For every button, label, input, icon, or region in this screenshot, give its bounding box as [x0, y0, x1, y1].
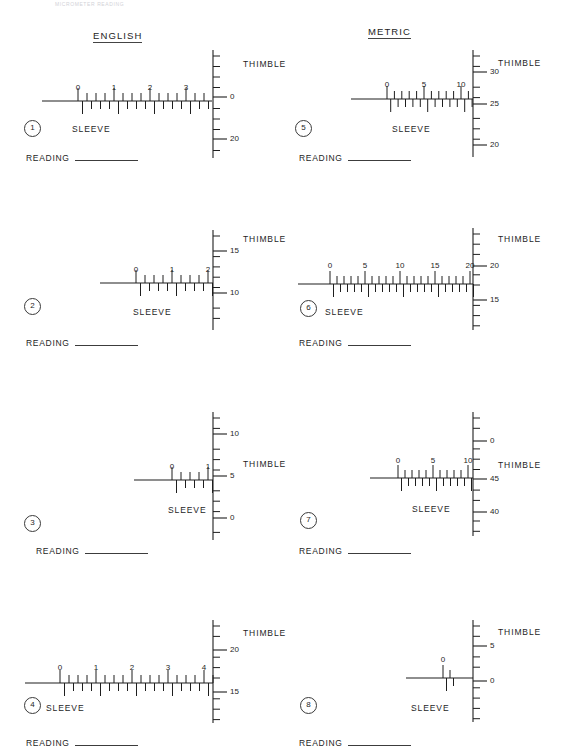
thimble-number-6-20: 20: [490, 261, 499, 270]
thimble-label-6: THIMBLE: [498, 234, 541, 244]
reading-answer-blank-4[interactable]: [75, 745, 138, 746]
sleeve-number-5-5: 5: [416, 80, 432, 89]
exercise-number-4: 4: [24, 697, 41, 714]
reading-label-6: READING: [299, 338, 343, 348]
reading-answer-blank-2[interactable]: [75, 345, 138, 346]
thimble-label-8: THIMBLE: [498, 627, 541, 637]
thimble-number-4-20: 20: [230, 645, 239, 654]
sleeve-number-4-4: 4: [196, 663, 212, 672]
reading-label-2: READING: [26, 338, 70, 348]
sleeve-number-4-3: 3: [160, 663, 176, 672]
reading-row-5: READING: [299, 153, 411, 163]
sleeve-number-6-10: 10: [392, 261, 408, 270]
sleeve-label-2: SLEEVE: [133, 307, 171, 317]
sleeve-label-8: SLEEVE: [411, 703, 449, 713]
sleeve-number-8-0: 0: [435, 655, 451, 664]
thimble-number-3-10: 10: [230, 429, 239, 438]
reading-answer-blank-3[interactable]: [85, 553, 148, 554]
thimble-label-5: THIMBLE: [498, 58, 541, 68]
sleeve-number-7-10: 10: [460, 456, 476, 465]
sleeve-number-6-5: 5: [357, 261, 373, 270]
thimble-number-6-15: 15: [490, 295, 499, 304]
reading-label-3: READING: [36, 546, 80, 556]
reading-row-8: READING: [299, 738, 411, 748]
sleeve-number-1-0: 0: [70, 83, 86, 92]
exercise-number-5: 5: [295, 120, 312, 137]
thimble-number-5-20: 20: [490, 140, 499, 149]
thimble-number-4-15: 15: [230, 687, 239, 696]
worksheet-sheet: MICROMETER READING ENGLISHMETRIC 0123SLE…: [0, 0, 566, 756]
sleeve-number-5-0: 0: [379, 80, 395, 89]
exercise-number-2: 2: [24, 298, 41, 315]
exercise-number-8: 8: [300, 697, 317, 714]
sleeve-number-7-0: 0: [390, 456, 406, 465]
thimble-number-1-20: 20: [230, 134, 239, 143]
exercise-number-3: 3: [24, 515, 41, 532]
reading-row-2: READING: [26, 338, 138, 348]
thimble-number-2-15: 15: [230, 246, 239, 255]
thimble-label-2: THIMBLE: [243, 234, 286, 244]
thimble-number-3-0: 0: [230, 513, 234, 522]
reading-answer-blank-6[interactable]: [348, 345, 411, 346]
thimble-number-8-5: 5: [490, 641, 494, 650]
sleeve-number-3-0: 0: [164, 462, 180, 471]
reading-row-4: READING: [26, 738, 138, 748]
thimble-number-5-25: 25: [490, 99, 499, 108]
sleeve-number-5-10: 10: [453, 80, 469, 89]
sleeve-number-1-2: 2: [142, 83, 158, 92]
sleeve-number-2-0: 0: [128, 265, 144, 274]
thimble-label-7: THIMBLE: [498, 460, 541, 470]
sleeve-number-3-1: 1: [200, 462, 216, 471]
thimble-number-1-0: 0: [230, 92, 234, 101]
thimble-number-3-5: 5: [230, 471, 234, 480]
sleeve-number-2-1: 1: [164, 265, 180, 274]
thimble-number-5-30: 30: [490, 67, 499, 76]
sleeve-number-6-15: 15: [427, 261, 443, 270]
thimble-number-7-0: 0: [490, 436, 494, 445]
sleeve-label-3: SLEEVE: [168, 505, 206, 515]
reading-label-5: READING: [299, 153, 343, 163]
thimble-label-3: THIMBLE: [243, 459, 286, 469]
sleeve-number-1-3: 3: [178, 83, 194, 92]
micrometer-scales-drawing: [0, 0, 566, 756]
exercise-number-6: 6: [300, 300, 317, 317]
reading-row-7: READING: [299, 546, 411, 556]
sleeve-number-7-5: 5: [425, 456, 441, 465]
reading-row-6: READING: [299, 338, 411, 348]
sleeve-number-6-0: 0: [322, 261, 338, 270]
thimble-label-1: THIMBLE: [243, 59, 286, 69]
reading-answer-blank-8[interactable]: [348, 745, 411, 746]
sleeve-label-4: SLEEVE: [46, 703, 84, 713]
thimble-number-2-10: 10: [230, 288, 239, 297]
sleeve-number-4-1: 1: [88, 663, 104, 672]
exercise-number-7: 7: [300, 512, 317, 529]
reading-row-1: READING: [26, 153, 138, 163]
thimble-number-7-40: 40: [490, 507, 499, 516]
thimble-number-8-0: 0: [490, 676, 494, 685]
sleeve-number-4-2: 2: [124, 663, 140, 672]
sleeve-label-7: SLEEVE: [412, 504, 450, 514]
sleeve-label-1: SLEEVE: [72, 124, 110, 134]
exercise-number-1: 1: [24, 120, 41, 137]
reading-answer-blank-5[interactable]: [348, 160, 411, 161]
thimble-number-7-45: 45: [490, 474, 499, 483]
reading-row-3: READING: [36, 546, 148, 556]
reading-label-1: READING: [26, 153, 70, 163]
reading-answer-blank-1[interactable]: [75, 160, 138, 161]
sleeve-number-1-1: 1: [106, 83, 122, 92]
reading-label-8: READING: [299, 738, 343, 748]
sleeve-number-4-0: 0: [52, 663, 68, 672]
reading-label-4: READING: [26, 738, 70, 748]
reading-answer-blank-7[interactable]: [348, 553, 411, 554]
reading-label-7: READING: [299, 546, 343, 556]
sleeve-number-2-2: 2: [200, 265, 216, 274]
sleeve-label-6: SLEEVE: [325, 307, 363, 317]
sleeve-label-5: SLEEVE: [392, 124, 430, 134]
sleeve-number-6-20: 20: [462, 261, 478, 270]
thimble-label-4: THIMBLE: [243, 628, 286, 638]
